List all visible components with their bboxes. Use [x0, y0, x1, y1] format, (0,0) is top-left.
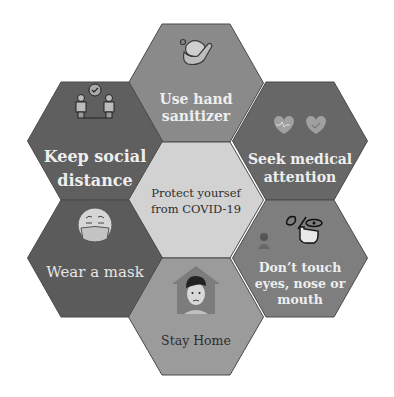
label-wear-a-mask: Wear a mask — [30, 263, 160, 281]
label-line: Don’t touch — [238, 260, 362, 276]
center-title-line: Protect yoursef — [140, 185, 252, 201]
label-line: sanitizer — [140, 108, 252, 125]
label-line: Use hand — [140, 91, 252, 108]
label-center-title: Protect yoursef from COVID-19 — [140, 185, 252, 217]
label-line: attention — [238, 168, 362, 186]
label-line: mouth — [238, 292, 362, 308]
covid-hexagon-diagram: Use hand sanitizer Keep social distance … — [0, 0, 394, 397]
label-line: eyes, nose or — [238, 276, 362, 292]
center-title-line: from COVID-19 — [140, 201, 252, 217]
label-seek-medical-attention: Seek medical attention — [238, 150, 362, 186]
label-line: Stay Home — [140, 333, 252, 348]
label-dont-touch: Don’t touch eyes, nose or mouth — [238, 260, 362, 308]
label-stay-home: Stay Home — [140, 333, 252, 348]
label-use-hand-sanitizer: Use hand sanitizer — [140, 91, 252, 125]
masked-face-icon — [78, 208, 112, 242]
label-line: Keep social — [30, 145, 160, 169]
label-line: Seek medical — [238, 150, 362, 168]
label-line: Wear a mask — [30, 263, 160, 281]
